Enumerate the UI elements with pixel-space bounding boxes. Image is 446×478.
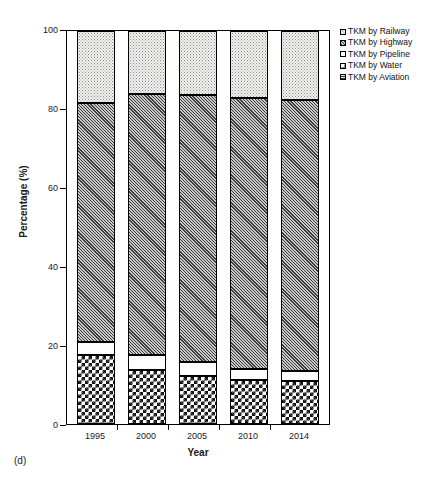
segment-pipeline[interactable] bbox=[77, 342, 115, 355]
legend-label-highway: TKM by Highway bbox=[348, 37, 412, 48]
y-axis-title: Percentage (%) bbox=[18, 137, 29, 267]
legend-label-railway: TKM by Railway bbox=[348, 26, 409, 37]
legend-label-water: TKM by Water bbox=[348, 60, 402, 71]
segment-water[interactable] bbox=[128, 370, 166, 424]
segment-highway[interactable] bbox=[128, 94, 166, 355]
x-tick-mark bbox=[117, 425, 118, 430]
bar-2005[interactable] bbox=[179, 31, 217, 424]
segment-water[interactable] bbox=[230, 380, 268, 424]
bar-2000[interactable] bbox=[128, 31, 166, 424]
segment-pipeline[interactable] bbox=[281, 371, 319, 381]
segment-railway[interactable] bbox=[281, 31, 319, 100]
segment-highway[interactable] bbox=[179, 95, 217, 362]
segment-railway[interactable] bbox=[128, 31, 166, 94]
x-tick-label-2005: 2005 bbox=[172, 431, 222, 441]
segment-pipeline[interactable] bbox=[128, 355, 166, 370]
segment-water[interactable] bbox=[179, 376, 217, 424]
legend-swatch-water-icon bbox=[340, 63, 346, 69]
panel-label: (d) bbox=[14, 455, 26, 466]
y-tick-label: 20 bbox=[24, 342, 58, 351]
x-tick-label-1995: 1995 bbox=[70, 431, 120, 441]
segment-highway[interactable] bbox=[230, 98, 268, 370]
legend-item-water[interactable]: TKM by Water bbox=[340, 60, 412, 71]
x-tick-label-2000: 2000 bbox=[121, 431, 171, 441]
y-tick-label: 60 bbox=[24, 184, 58, 193]
figure-panel-d: 100 80 60 40 20 0 Percentage (%) bbox=[0, 0, 446, 478]
segment-pipeline[interactable] bbox=[179, 362, 217, 376]
bar-2014[interactable] bbox=[281, 31, 319, 424]
bar-2010[interactable] bbox=[230, 31, 268, 424]
segment-railway[interactable] bbox=[230, 31, 268, 98]
y-tick-label: 0 bbox=[24, 421, 58, 430]
x-axis-title: Year bbox=[66, 447, 330, 458]
segment-railway[interactable] bbox=[77, 31, 115, 103]
x-tick-label-2014: 2014 bbox=[274, 431, 324, 441]
legend-swatch-aviation-icon bbox=[340, 74, 346, 80]
segment-highway[interactable] bbox=[281, 100, 319, 372]
y-tick-label: 100 bbox=[24, 26, 58, 35]
segment-pipeline[interactable] bbox=[230, 369, 268, 380]
x-tick-mark bbox=[219, 425, 220, 430]
segment-highway[interactable] bbox=[77, 103, 115, 343]
y-tick-label: 80 bbox=[24, 105, 58, 114]
legend-item-aviation[interactable]: TKM by Aviation bbox=[340, 72, 412, 83]
legend-label-aviation: TKM by Aviation bbox=[348, 72, 409, 83]
legend-swatch-railway-icon bbox=[340, 29, 346, 35]
legend: TKM by Railway TKM by Highway TKM by Pip… bbox=[340, 26, 412, 83]
segment-water[interactable] bbox=[281, 381, 319, 424]
legend-swatch-pipeline-icon bbox=[340, 51, 346, 57]
x-tick-mark bbox=[270, 425, 271, 430]
y-tick-mark bbox=[60, 425, 66, 426]
bar-1995[interactable] bbox=[77, 31, 115, 424]
segment-railway[interactable] bbox=[179, 31, 217, 95]
legend-item-railway[interactable]: TKM by Railway bbox=[340, 26, 412, 37]
segment-water[interactable] bbox=[77, 355, 115, 424]
x-tick-mark bbox=[168, 425, 169, 430]
plot-area bbox=[66, 30, 330, 425]
legend-label-pipeline: TKM by Pipeline bbox=[348, 49, 410, 60]
legend-item-pipeline[interactable]: TKM by Pipeline bbox=[340, 49, 412, 60]
x-tick-label-2010: 2010 bbox=[223, 431, 273, 441]
legend-item-highway[interactable]: TKM by Highway bbox=[340, 37, 412, 48]
legend-swatch-highway-icon bbox=[340, 40, 346, 46]
y-tick-label: 40 bbox=[24, 263, 58, 272]
